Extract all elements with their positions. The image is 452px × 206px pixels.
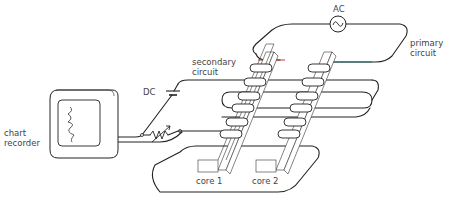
dc-label: DC [143,87,156,97]
rheostat-icon [150,131,168,139]
secondary-circuit-label-1: secondary [192,57,236,67]
core-1-label: core 1 [196,176,223,186]
primary-circuit-label-2: circuit [410,48,437,58]
fluxgate-diagram: AC primary circuit DC secondary circuit … [0,0,452,206]
chart-recorder-label-1: chart [4,128,27,138]
dc-lead [174,84,178,91]
primary-circuit-label-1: primary [410,38,443,48]
chart-recorder-label-2: recorder [4,138,40,148]
recorder-lead-top [118,135,150,137]
secondary-return-wire [372,80,378,100]
secondary-circuit-label-2: circuit [192,67,219,77]
rheostat-to-coils [168,131,222,135]
chart-recorder [50,90,118,158]
ac-label: AC [333,4,345,14]
core-2-label: core 2 [252,176,279,186]
junction-left [141,134,144,137]
dc-to-rheostat [142,95,172,135]
secondary-top-wire [178,80,372,84]
